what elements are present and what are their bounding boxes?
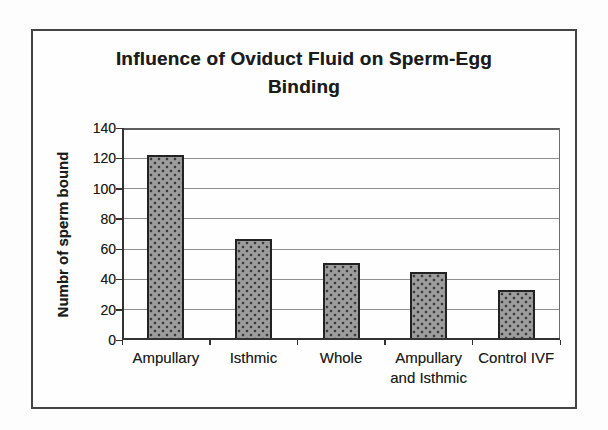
x-tick-mark-3 — [384, 340, 386, 345]
y-tick-label-0: 0 — [79, 332, 116, 348]
y-tick-mark-20 — [116, 309, 122, 311]
bar-isthmic — [235, 239, 272, 340]
y-tick-mark-40 — [116, 279, 122, 281]
x-tick-mark-4 — [472, 340, 474, 345]
x-category-label-line: Isthmic — [204, 348, 304, 368]
x-category-label-line: Whole — [291, 348, 391, 368]
x-category-label-control-ivf: Control IVF — [466, 348, 566, 368]
y-tick-label-80: 80 — [79, 211, 116, 227]
figure-frame-inner: Influence of Oviduct Fluid on Sperm-Egg … — [33, 31, 575, 407]
plot-area — [122, 128, 560, 340]
y-tick-mark-140 — [116, 128, 122, 130]
x-category-label-whole: Whole — [291, 348, 391, 368]
chart-title: Influence of Oviduct Fluid on Sperm-Egg … — [33, 45, 575, 101]
gridline-100 — [122, 188, 560, 189]
x-axis-line — [122, 338, 560, 340]
bar-control-ivf — [498, 290, 535, 340]
y-tick-mark-80 — [116, 218, 122, 220]
x-tick-mark-2 — [297, 340, 299, 345]
x-category-label-line: Ampullary — [379, 348, 479, 368]
y-tick-label-100: 100 — [79, 181, 116, 197]
plot-border-right — [559, 128, 561, 340]
x-category-label-ampullary-and-isthmic: Ampullaryand Isthmic — [379, 348, 479, 388]
y-tick-label-140: 140 — [79, 120, 116, 136]
chart-title-line-2: Binding — [33, 73, 575, 101]
y-axis-line — [122, 128, 124, 340]
y-tick-label-20: 20 — [79, 302, 116, 318]
plot-border-top — [122, 128, 560, 130]
scanned-chart-page: Influence of Oviduct Fluid on Sperm-Egg … — [0, 0, 608, 430]
x-tick-mark-5 — [560, 340, 562, 345]
x-category-label-isthmic: Isthmic — [204, 348, 304, 368]
x-category-label-line: and Isthmic — [379, 368, 479, 388]
gridline-120 — [122, 158, 560, 159]
x-category-label-ampullary: Ampullary — [116, 348, 216, 368]
gridline-60 — [122, 249, 560, 250]
y-tick-label-40: 40 — [79, 271, 116, 287]
x-tick-mark-1 — [209, 340, 211, 345]
y-axis-label-box: Numbr of sperm bound — [43, 128, 83, 340]
x-category-label-line: Ampullary — [116, 348, 216, 368]
y-tick-mark-60 — [116, 249, 122, 251]
y-tick-label-60: 60 — [79, 241, 116, 257]
gridline-80 — [122, 218, 560, 219]
x-tick-mark-0 — [122, 340, 124, 345]
chart-title-line-1: Influence of Oviduct Fluid on Sperm-Egg — [33, 45, 575, 73]
y-tick-mark-100 — [116, 188, 122, 190]
bar-ampullary — [147, 155, 184, 340]
y-tick-mark-120 — [116, 158, 122, 160]
bar-ampullary-and-isthmic — [410, 272, 447, 340]
x-category-label-line: Control IVF — [466, 348, 566, 368]
y-axis-label: Numbr of sperm bound — [55, 151, 72, 317]
y-tick-label-120: 120 — [79, 150, 116, 166]
bar-whole — [323, 263, 360, 340]
figure-frame: Influence of Oviduct Fluid on Sperm-Egg … — [31, 29, 577, 409]
